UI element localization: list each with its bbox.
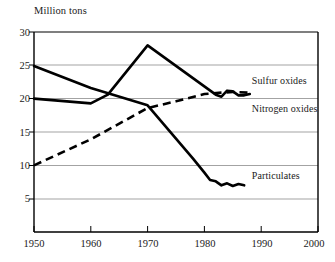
series-label-sulfur-oxides: Sulfur oxides	[252, 75, 307, 86]
series-line-sulfur-oxides	[34, 45, 250, 103]
series-label-particulates: Particulates	[252, 170, 300, 181]
y-axis-ticks	[29, 32, 34, 199]
emissions-line-chart: Million tons 30 25 20 15 10 5 1950 1960 …	[0, 0, 335, 262]
series-line-particulates	[34, 66, 244, 186]
x-axis-ticks	[34, 226, 318, 232]
plot-canvas	[0, 0, 335, 262]
series-label-nitrogen-oxides: Nitrogen oxides	[252, 103, 318, 114]
